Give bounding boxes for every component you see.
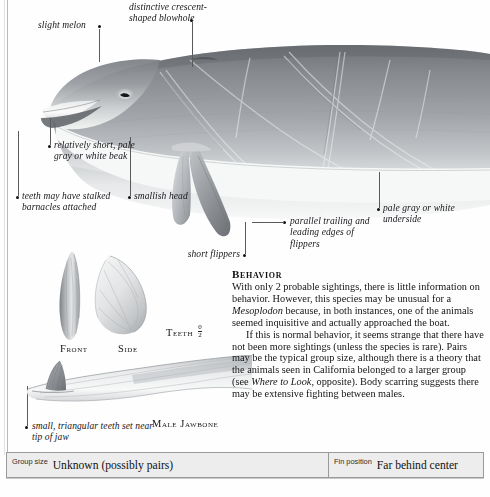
- callout-leader-flipper-edges: [252, 222, 284, 223]
- behavior-heading: Behavior: [232, 268, 484, 280]
- caption-front: Front: [60, 343, 88, 354]
- caption-side: Side: [118, 343, 138, 354]
- fin-position-value: Far behind center: [377, 459, 458, 472]
- teeth-count-fraction: 0 2: [198, 324, 202, 339]
- callout-label-slight-melon: slight melon: [38, 20, 114, 31]
- callout-leader-barnacles: [18, 131, 19, 196]
- callout-leader-underside: [379, 172, 380, 208]
- field-guide-plate: slight melon distinctive crescent-shaped…: [0, 0, 490, 497]
- caption-teeth-label: Teeth: [166, 327, 193, 338]
- callout-label-blowhole: distinctive crescent-shaped blowhole: [129, 2, 233, 25]
- callout-label-short-flippers: short flippers: [178, 249, 240, 260]
- data-bar-underline: [6, 478, 484, 479]
- tooth-detail-illustration: [52, 250, 182, 350]
- behavior-section: Behavior With only 2 probable sightings,…: [232, 268, 484, 400]
- caption-teeth: Teeth 0 2: [166, 324, 202, 339]
- callout-leader-beak: [50, 118, 51, 145]
- callout-label-underside: pale gray or white underside: [383, 203, 467, 226]
- callout-label-smallish-head: smallish head: [134, 191, 190, 202]
- callout-label-beak: relatively short, pale gray or white bea…: [54, 140, 146, 163]
- behavior-paragraph-2: If this is normal behavior, it seems str…: [232, 329, 484, 400]
- callout-leader-short-flippers: [245, 222, 246, 254]
- group-size-value: Unknown (possibly pairs): [53, 459, 173, 472]
- callout-label-barnacles: teeth may have stalked barnacles attache…: [22, 191, 126, 214]
- fin-position-key: Fin position: [334, 457, 372, 466]
- callout-label-flipper-edges: parallel trailing and leading edges of f…: [290, 216, 386, 250]
- group-size-cell: Group size Unknown (possibly pairs): [7, 453, 328, 477]
- callout-leader-smallish-head: [130, 137, 131, 196]
- callout-leader-blowhole: [192, 22, 193, 67]
- behavior-p1-genus: Mesoplodon: [232, 305, 283, 316]
- teeth-count-numerator: 0: [198, 324, 202, 331]
- callout-dot-barnacles: [16, 196, 19, 199]
- page-margin-rule-outer: [4, 0, 5, 455]
- behavior-p2-crossref: Where to Look: [251, 376, 311, 387]
- species-data-bar: Group size Unknown (possibly pairs) Fin …: [6, 452, 484, 478]
- behavior-paragraph-1: With only 2 probable sightings, there is…: [232, 281, 484, 329]
- page-margin-rule: [7, 0, 8, 455]
- fin-position-cell: Fin position Far behind center: [328, 453, 483, 477]
- teeth-count-denominator: 2: [198, 331, 202, 339]
- caption-male-jawbone: Male Jawbone: [152, 418, 218, 429]
- group-size-key: Group size: [12, 457, 48, 466]
- behavior-p1-part-a: With only 2 probable sightings, there is…: [232, 281, 480, 304]
- callout-dot-short-flippers: [243, 254, 246, 257]
- callout-leader-slight-melon: [99, 29, 100, 62]
